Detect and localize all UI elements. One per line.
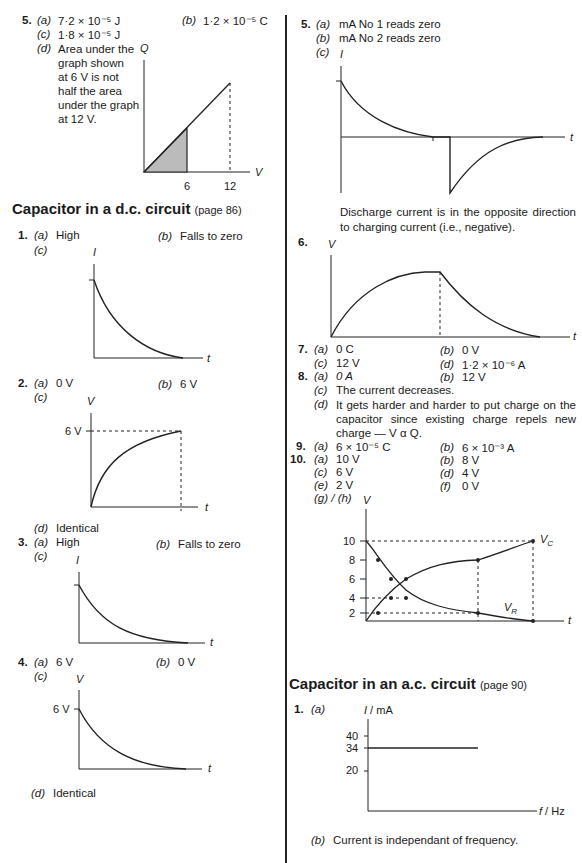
r-q10e-label: (e) [314, 479, 328, 491]
r-q10d-answer: 4 V [462, 467, 479, 479]
r-q5b-label: (b) [316, 32, 330, 44]
q2a-answer: 0 V [56, 377, 73, 389]
r-q8b-label: (b) [440, 371, 454, 383]
q5a-label: (a) [37, 14, 51, 26]
svg-text:6 V: 6 V [53, 703, 70, 715]
r-q10b-label: (b) [440, 454, 454, 466]
ac-q1-number: 1. [294, 703, 304, 715]
r-q5c-label: (c) [316, 46, 329, 58]
svg-text:8: 8 [349, 554, 355, 566]
svg-text:I / mA: I / mA [364, 704, 393, 716]
r-q8b-answer: 12 V [462, 371, 486, 383]
r-q9-number: 9. [296, 440, 306, 452]
svg-text:34: 34 [346, 742, 358, 754]
q2b-label: (b) [158, 378, 172, 390]
r-q5a-answer: mA No 1 reads zero [339, 18, 441, 30]
q1a-answer: High [56, 229, 80, 241]
q5d-label: (d) [37, 42, 51, 54]
r-q7a-label: (a) [314, 343, 328, 355]
q2a-label: (a) [34, 377, 48, 389]
ac-q1a-label: (a) [311, 703, 325, 715]
svg-text:t: t [570, 131, 574, 143]
q4d-answer: Identical [53, 787, 96, 799]
dc10-vc-vr-graph: V 10 8 6 4 2 VC VR t [340, 495, 580, 635]
r-q8a-answer: 0 A [336, 370, 353, 382]
svg-text:2: 2 [349, 607, 355, 619]
q1-number: 1. [18, 229, 28, 241]
svg-text:I: I [93, 246, 96, 258]
q4c-label: (c) [34, 670, 47, 682]
r-q8c-answer: The current decreases. [336, 384, 454, 396]
r-q7c-label: (c) [314, 357, 327, 369]
svg-text:40: 40 [346, 730, 358, 742]
q5b-answer: 1·2 × 10⁻⁵ C [203, 14, 268, 28]
svg-text:t: t [568, 614, 572, 626]
ac-q1b-label: (b) [311, 834, 325, 846]
q1c-label: (c) [34, 244, 47, 256]
column-divider [285, 15, 287, 863]
svg-text:V: V [255, 166, 264, 178]
q2-number: 2. [18, 377, 28, 389]
section-dc-heading: Capacitor in a d.c. circuit (page 86) [12, 200, 242, 217]
q5a-answer: 7·2 × 10⁻⁵ J [58, 14, 120, 28]
svg-text:t: t [205, 501, 209, 513]
r-q10-number: 10. [290, 453, 306, 465]
dc3c-graph: I t [70, 555, 220, 655]
q4b-label: (b) [156, 656, 170, 668]
r-q10e-answer: 2 V [336, 479, 353, 491]
q1a-label: (a) [34, 229, 48, 241]
r-q6-number: 6. [298, 236, 308, 248]
dc6-graph: V t [325, 240, 580, 350]
svg-text:6: 6 [184, 180, 190, 192]
r-q7b-answer: 0 V [462, 344, 479, 356]
r-q7d-answer: 1·2 × 10⁻⁶ A [462, 358, 525, 372]
r-q10b-answer: 8 V [462, 454, 479, 466]
r-q10f-label: (f) [440, 480, 451, 492]
q-v-graph: Q V 6 12 [130, 40, 270, 200]
r-q5b-answer: mA No 2 reads zero [339, 32, 441, 44]
q2d-answer: Identical [56, 522, 99, 534]
r-q8c-label: (c) [314, 384, 327, 396]
dc2c-graph: V 6 V t [60, 395, 220, 520]
svg-text:12: 12 [224, 180, 236, 192]
r-q9a-answer: 6 × 10⁻⁵ C [336, 440, 391, 454]
r-q10d-label: (d) [440, 467, 454, 479]
r-q8d-label: (d) [314, 398, 328, 410]
r-q5-number: 5. [301, 18, 311, 30]
q3c-label: (c) [34, 550, 47, 562]
svg-text:6 V: 6 V [65, 425, 82, 437]
svg-text:20: 20 [346, 764, 358, 776]
ac-q1b-answer: Current is independant of frequency. [333, 834, 518, 846]
q1b-answer: Falls to zero [180, 230, 243, 242]
ac1a-graph: I / mA 40 34 20 f / Hz [340, 705, 580, 815]
r-q8-number: 8. [298, 370, 308, 382]
svg-text:VC: VC [540, 533, 553, 548]
dc5c-graph: I t [330, 48, 580, 198]
r-q10a-answer: 10 V [336, 453, 360, 465]
svg-text:t: t [573, 330, 577, 342]
r-q9b-label: (b) [440, 441, 454, 453]
q1b-label: (b) [158, 230, 172, 242]
svg-text:V: V [328, 238, 337, 250]
q2c-label: (c) [34, 391, 47, 403]
q5d-answer: Area under thegraph shownat 6 V is not h… [58, 42, 139, 126]
r-q10f-answer: 0 V [462, 480, 479, 492]
q5c-label: (c) [37, 28, 50, 40]
q3b-label: (b) [156, 538, 170, 550]
q2b-answer: 6 V [180, 378, 197, 390]
r-q10c-label: (c) [314, 466, 327, 478]
q3a-answer: High [56, 536, 80, 548]
svg-text:t: t [210, 636, 214, 648]
q2d-label: (d) [34, 522, 48, 534]
r-q8d-answer: It gets harder and harder to put charge … [336, 398, 576, 440]
q5b-label: (b) [182, 14, 196, 26]
r-q8a-label: (a) [314, 370, 328, 382]
r-q7d-label: (d) [440, 358, 454, 370]
dc1c-graph: I t [85, 248, 215, 363]
svg-text:f / Hz: f / Hz [539, 805, 565, 817]
q3b-answer: Falls to zero [178, 538, 241, 550]
r-q5-note: Discharge current is in the opposite dir… [340, 205, 576, 235]
dc4c-graph: V 6 V t [50, 675, 220, 775]
r-q7a-answer: 0 C [336, 343, 354, 355]
q4b-answer: 0 V [178, 656, 195, 668]
